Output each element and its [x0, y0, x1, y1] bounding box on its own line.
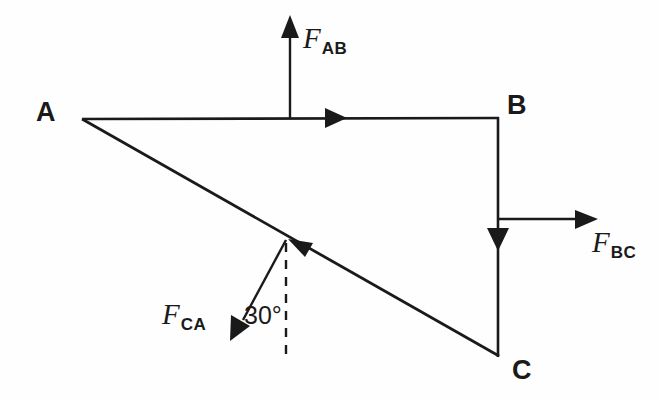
force-label-ab: FAB — [303, 24, 346, 53]
member-bc-arrowhead-icon — [487, 228, 509, 251]
truss-members — [82, 117, 499, 357]
force-bc-symbol: F — [592, 226, 610, 258]
force-ab-arrow — [281, 15, 299, 119]
force-label-bc: FBC — [592, 228, 635, 257]
vertex-label-b: B — [507, 92, 527, 119]
force-diagram-graphic — [0, 0, 659, 399]
member-direction-arrowheads — [288, 108, 509, 257]
force-ca-symbol: F — [162, 298, 180, 330]
force-diagram-canvas: A B C FAB FBC FCA 30° — [0, 0, 659, 399]
member-ca-line — [82, 119, 499, 356]
vertex-label-a: A — [36, 99, 56, 126]
angle-label-30-degrees: 30° — [244, 303, 282, 328]
force-ab-arrowhead-icon — [281, 15, 299, 38]
member-ab-arrowhead-icon — [325, 108, 347, 128]
vertex-label-c: C — [512, 357, 532, 384]
force-label-ca: FCA — [162, 300, 205, 329]
force-ca-subscript: CA — [181, 315, 206, 334]
force-ab-symbol: F — [303, 22, 321, 54]
member-ca-arrowhead-icon — [288, 239, 313, 257]
force-bc-subscript: BC — [611, 243, 636, 262]
force-bc-arrow — [499, 210, 598, 229]
force-ab-subscript: AB — [322, 39, 347, 58]
